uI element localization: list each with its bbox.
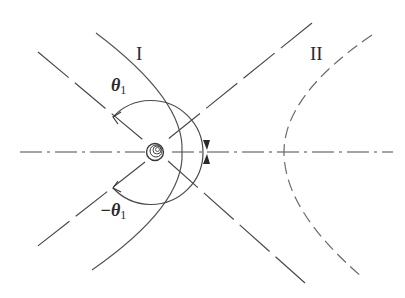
negative-theta-subscript: 1 <box>120 208 126 222</box>
theta-subscript: 1 <box>120 83 126 97</box>
curve-two-label: II <box>310 43 323 65</box>
hyperbola-branch-two <box>284 35 372 277</box>
central-body-icon <box>147 144 164 161</box>
negative-theta-symbol: −θ <box>100 200 120 220</box>
negative-theta-label: −θ1 <box>100 200 126 223</box>
asymptote-lines <box>34 23 312 283</box>
theta-symbol: θ <box>111 75 120 95</box>
hyperbolic-orbit-diagram: I II θ1 −θ1 <box>0 0 405 298</box>
theta-label: θ1 <box>111 75 126 98</box>
curve-one-label: I <box>136 43 142 65</box>
